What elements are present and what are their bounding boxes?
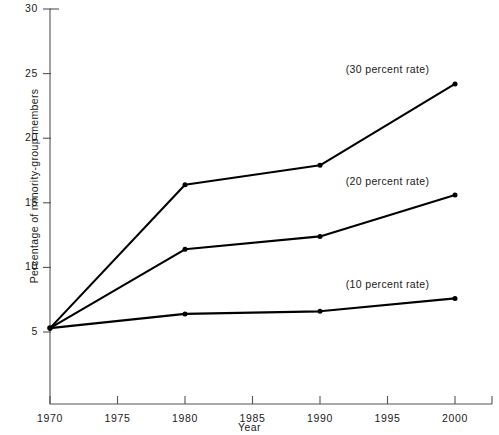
y-axis-tick-label: 25 [8, 67, 38, 79]
chart-figure: Percentage of minority-group members Yea… [0, 0, 499, 435]
series-line [50, 195, 455, 328]
y-axis-tick-label: 30 [8, 2, 38, 14]
data-point-marker [453, 296, 458, 301]
data-point-marker [453, 193, 458, 198]
x-axis-tick-label: 1970 [27, 412, 73, 424]
data-point-marker [318, 163, 323, 168]
series-annotation-label: (20 percent rate) [346, 175, 430, 187]
x-axis-tick-label: 1985 [230, 412, 276, 424]
y-axis-tick-label: 10 [8, 260, 38, 272]
y-axis-tick-label: 15 [8, 196, 38, 208]
data-point-marker [183, 182, 188, 187]
y-axis-tick-label: 20 [8, 131, 38, 143]
data-point-marker [47, 325, 53, 331]
x-axis-tick-label: 1995 [365, 412, 411, 424]
series-annotation-label: (30 percent rate) [346, 63, 430, 75]
data-point-marker [318, 234, 323, 239]
data-point-marker [318, 309, 323, 314]
y-axis-tick-label: 5 [8, 325, 38, 337]
series-annotation-label: (10 percent rate) [346, 278, 430, 290]
x-axis-tick-label: 1990 [297, 412, 343, 424]
data-point-marker [183, 247, 188, 252]
x-axis-tick-label: 1980 [162, 412, 208, 424]
data-point-marker [183, 311, 188, 316]
x-axis-tick-label: 1975 [95, 412, 141, 424]
data-point-marker [453, 81, 458, 86]
chart-series [47, 81, 457, 330]
series-line [50, 298, 455, 328]
x-axis-tick-label: 2000 [432, 412, 478, 424]
